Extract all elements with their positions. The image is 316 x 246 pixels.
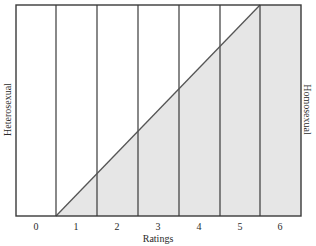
tick-label-4: 4 (189, 221, 209, 232)
tick-label-0: 0 (26, 221, 46, 232)
left-axis-label: Heterosexual (2, 65, 13, 155)
tick-label-1: 1 (66, 221, 86, 232)
right-axis-label: Homosexual (302, 65, 313, 155)
tick-label-6: 6 (270, 221, 290, 232)
x-axis-label: Ratings (128, 233, 188, 244)
kinsey-scale-diagram (0, 0, 316, 246)
tick-label-3: 3 (148, 221, 168, 232)
tick-label-2: 2 (107, 221, 127, 232)
tick-label-5: 5 (230, 221, 250, 232)
